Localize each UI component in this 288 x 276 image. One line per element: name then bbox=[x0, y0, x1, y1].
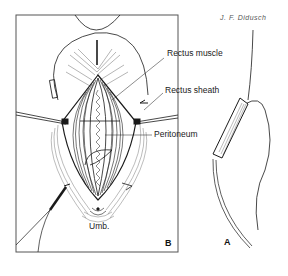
label-umbilicus: Umb. bbox=[89, 221, 109, 231]
label-rectus-muscle: Rectus muscle bbox=[167, 48, 223, 58]
surgical-illustration: J. F. Didusch Rectus muscle Rectus sheat… bbox=[0, 0, 288, 276]
artist-signature: J. F. Didusch bbox=[220, 14, 266, 21]
illustration-artwork bbox=[0, 0, 288, 276]
label-peritoneum: Peritoneum bbox=[154, 129, 197, 139]
panel-a-drawing bbox=[213, 30, 270, 248]
panel-letter-b: B bbox=[165, 238, 172, 248]
label-rectus-sheath: Rectus sheath bbox=[165, 85, 219, 95]
panel-letter-a: A bbox=[224, 237, 231, 247]
